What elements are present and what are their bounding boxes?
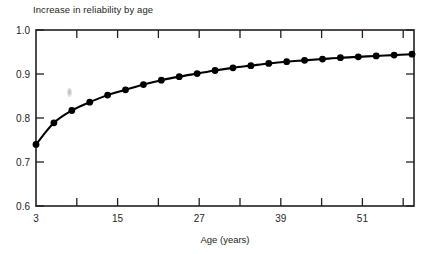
y-tick-label-0.8: 0.8: [16, 113, 30, 124]
data-point: [301, 57, 308, 64]
data-point: [230, 64, 237, 71]
data-point: [176, 73, 183, 80]
y-tick-label-1.0: 1.0: [16, 25, 30, 36]
data-point: [265, 60, 272, 67]
data-point: [409, 51, 416, 58]
y-axis-tick-labels: 1.0 0.9 0.8 0.7 0.6: [16, 25, 30, 212]
data-point: [355, 53, 362, 60]
data-point: [86, 99, 93, 106]
x-tick-label-51: 51: [357, 213, 369, 224]
x-axis-title: Age (years): [200, 234, 249, 245]
series-line-reliability: [36, 54, 412, 144]
x-axis-tick-labels: 3 15 27 39 51: [33, 213, 368, 224]
data-point: [337, 54, 344, 61]
plot-area: 1.0 0.9 0.8 0.7 0.6: [0, 0, 427, 254]
data-point: [68, 107, 75, 114]
y-tick-label-0.9: 0.9: [16, 69, 30, 80]
x-tick-label-3: 3: [33, 213, 39, 224]
data-point: [33, 141, 40, 148]
data-point: [140, 81, 147, 88]
data-point: [194, 70, 201, 77]
data-point: [158, 77, 165, 84]
data-point: [51, 119, 58, 126]
y-tick-label-0.7: 0.7: [16, 157, 30, 168]
data-point: [104, 92, 111, 99]
x-tick-label-39: 39: [275, 213, 287, 224]
y-tick-label-0.6: 0.6: [16, 201, 30, 212]
data-point: [247, 62, 254, 69]
series-markers-reliability: [33, 51, 416, 148]
data-point: [283, 58, 290, 65]
chart-figure: Increase in reliability by age 1.0 0.9 0…: [0, 0, 427, 254]
data-point: [319, 56, 326, 63]
data-point: [391, 52, 398, 59]
x-tick-label-15: 15: [112, 213, 124, 224]
data-point: [373, 53, 380, 60]
data-point: [122, 86, 129, 93]
x-tick-label-27: 27: [194, 213, 206, 224]
data-point: [212, 67, 219, 74]
